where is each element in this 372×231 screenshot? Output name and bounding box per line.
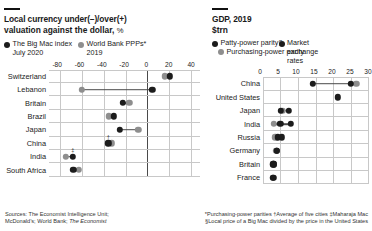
plot-area: ChinaUnited StatesJapanIndiaRussiaGerman… [212, 77, 368, 184]
chart-title-left: Local currency under(–)/over(+) [4, 14, 200, 24]
row-track [263, 158, 368, 171]
scatter-chart-right: 051015202530ChinaUnited StatesJapanIndia… [212, 68, 368, 184]
row-track [49, 110, 200, 123]
chart-subtitle-right: $trn [212, 25, 368, 35]
gridline [169, 150, 170, 163]
chart-panel-right: GDP, 2019 $trn Patty-power parity§ Purch… [212, 0, 368, 231]
gridline [169, 96, 170, 109]
category-label: Britain [4, 99, 49, 108]
gridline [280, 91, 281, 104]
row-track: ‡ [49, 150, 200, 163]
gridline [104, 163, 105, 176]
gridline [191, 150, 192, 163]
chart-subtitle-left-text: valuation against the dollar, [4, 25, 114, 35]
x-tick-label: 5 [276, 68, 280, 75]
x-tick-label: 0 [145, 61, 149, 68]
top-rule-right [212, 8, 228, 10]
category-label: Lebanon [4, 85, 49, 94]
data-point [135, 127, 141, 133]
gridline [263, 131, 264, 144]
gridline [263, 117, 264, 130]
gridline [263, 104, 264, 117]
legend-sublabel-world-bank: 2019 [87, 49, 147, 58]
chart-row: Brazil [4, 110, 200, 123]
gridline [169, 123, 170, 136]
zero-gridline [147, 123, 148, 136]
chart-row: South Africa [4, 163, 200, 176]
zero-gridline [147, 70, 148, 83]
gridline [280, 158, 281, 171]
data-point [277, 121, 283, 127]
gridline [368, 171, 369, 184]
category-label: India [4, 152, 49, 161]
gridline [368, 117, 369, 130]
chart-row: Russia [212, 131, 368, 144]
x-tick-label: 30 [364, 68, 371, 75]
row-track [263, 91, 368, 104]
legend-dot-icon-grey [218, 49, 224, 55]
gridline [60, 137, 61, 150]
gridline [368, 158, 369, 171]
data-point [126, 100, 132, 106]
category-label: Japan [212, 106, 263, 115]
chart-panel-left: Local currency under(–)/over(+) valuatio… [4, 0, 200, 231]
gridline [60, 70, 61, 83]
gridline [82, 96, 83, 109]
chart-row: United States [212, 91, 368, 104]
gridline [60, 123, 61, 136]
gridline [191, 70, 192, 83]
gridline [104, 150, 105, 163]
gridline [82, 123, 83, 136]
row-track [263, 117, 368, 130]
row-track [263, 104, 368, 117]
footnote-marker: † [107, 134, 110, 140]
category-label: Japan [4, 125, 49, 134]
gridline [316, 144, 317, 157]
top-rule-left [4, 8, 20, 10]
gridline [126, 70, 127, 83]
x-tick-label: 10 [292, 68, 299, 75]
gridline [368, 144, 369, 157]
legend-dot-icon-dark [212, 41, 218, 47]
gridline [60, 96, 61, 109]
row-track [49, 123, 200, 136]
gridline [169, 163, 170, 176]
legend-label-world-bank: World Bank PPPs* 2019 [87, 40, 147, 57]
legend-right: Patty-power parity§ Purchasing-power par… [212, 39, 368, 65]
chart-row: Switzerland [4, 70, 200, 83]
gridline [368, 104, 369, 117]
chart-subtitle-left: valuation against the dollar, % [4, 25, 200, 36]
sources-note: Sources: The Economist Intelligence Unit… [5, 211, 185, 225]
methodology-note-line-1: *Purchasing-power parities †Average of f… [205, 211, 368, 217]
x-tick-label: -80 [52, 61, 62, 68]
gridline [82, 150, 83, 163]
data-point [166, 73, 172, 79]
data-point [70, 153, 76, 159]
sources-label: Sources: [5, 211, 27, 217]
gridline [316, 117, 317, 130]
gridline [126, 137, 127, 150]
gridline [298, 131, 299, 144]
chart-row: India‡ [4, 150, 200, 163]
chart-row: China [212, 77, 368, 90]
legend-dot-icon-dark [4, 42, 10, 48]
legend-dot-icon-dark [279, 41, 285, 47]
row-track [263, 77, 368, 90]
chart-row: Britain [212, 158, 368, 171]
data-point [149, 86, 155, 92]
data-point [111, 113, 117, 119]
legend-item-world-bank-ppps: World Bank PPPs* 2019 [78, 40, 146, 57]
gridline [263, 77, 264, 90]
category-label: South Africa [4, 166, 49, 175]
x-tick-label: 15 [310, 68, 317, 75]
gridline [280, 171, 281, 184]
gridline [368, 77, 369, 90]
zero-gridline [147, 150, 148, 163]
gridline [82, 110, 83, 123]
x-tick-label: 20 [328, 68, 335, 75]
gridline [333, 144, 334, 157]
legend-item-market-exchange-rates: Market exchange rates [279, 39, 336, 65]
category-label: Brazil [4, 112, 49, 121]
gridline [351, 158, 352, 171]
category-label: Germany [212, 146, 263, 155]
